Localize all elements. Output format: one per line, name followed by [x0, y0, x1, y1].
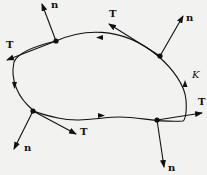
tangent-arrow [7, 41, 56, 60]
curve-label-k: K [192, 70, 199, 80]
normal-arrow [160, 16, 183, 56]
tangent-label-lower-right: T [198, 97, 205, 107]
normal-arrow [157, 120, 164, 167]
curve-direction-arrow [183, 80, 188, 87]
normal-label-upper-right: n [186, 13, 193, 23]
tangent-label-upper-left: T [6, 40, 13, 50]
tangent-label-upper-right: T [109, 9, 116, 19]
curve-direction-arrow [96, 35, 103, 40]
tangent-arrow [157, 113, 202, 120]
tangent-label-lower-left: T [80, 127, 87, 137]
closed-curve-k [13, 32, 186, 121]
normal-label-upper-left: n [51, 0, 58, 10]
normal-label-lower-left: n [24, 143, 31, 153]
normal-label-lower-right: n [168, 163, 175, 173]
diagram-canvas: n T T n K T n T n [0, 0, 207, 175]
curve-direction-arrow [98, 113, 105, 118]
tangent-arrow [33, 111, 76, 134]
tangent-arrow [109, 24, 160, 56]
